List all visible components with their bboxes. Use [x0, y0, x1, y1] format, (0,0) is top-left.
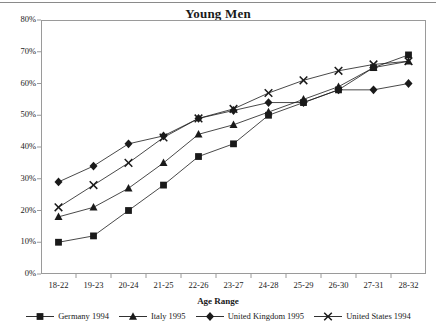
diamond-marker-icon	[195, 311, 225, 322]
legend-item: United Kingdom 1995	[195, 311, 305, 322]
x-axis-title: Age Range	[0, 296, 436, 306]
legend-item: Germany 1994	[25, 311, 109, 322]
y-axis-tick-label: 10%	[2, 237, 36, 246]
legend-label: Italy 1995	[151, 312, 186, 321]
x-axis-tick-label: 28-32	[387, 280, 431, 290]
y-axis-tick-label: 0%	[2, 269, 36, 278]
square-marker-icon	[25, 311, 55, 322]
top-rule	[0, 2, 436, 3]
chart-legend: Germany 1994Italy 1995United Kingdom 199…	[0, 311, 436, 322]
y-axis-tick-label: 20%	[2, 206, 36, 215]
legend-label: Germany 1994	[58, 312, 109, 321]
triangle-marker-icon	[118, 311, 148, 322]
cross-marker-icon	[313, 311, 343, 322]
y-axis-tick-label: 50%	[2, 110, 36, 119]
legend-label: United States 1994	[346, 312, 411, 321]
y-axis-tick-label: 60%	[2, 79, 36, 88]
legend-item: Italy 1995	[118, 311, 186, 322]
y-axis-tick-label: 80%	[2, 15, 36, 24]
legend-item: United States 1994	[313, 311, 411, 322]
legend-label: United Kingdom 1995	[228, 312, 305, 321]
y-axis-tick-label: 70%	[2, 47, 36, 56]
plot-area	[41, 20, 426, 274]
y-axis-tick-label: 30%	[2, 174, 36, 183]
y-axis-tick-label: 40%	[2, 142, 36, 151]
